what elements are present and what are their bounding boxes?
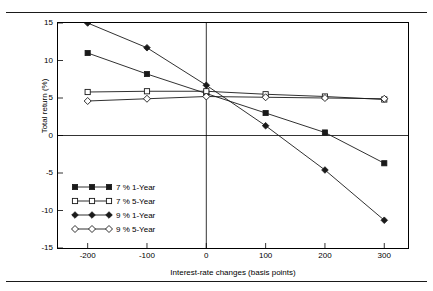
legend-marker	[72, 198, 77, 203]
series-marker	[144, 71, 149, 76]
y-tick-label: -10	[7, 206, 53, 215]
legend-symbol-svg	[70, 208, 114, 222]
chart-figure: Total return (%) Interest-rate changes (…	[0, 0, 433, 291]
series-marker	[84, 23, 91, 26]
series-1	[85, 89, 387, 102]
legend-label: 9 % 5-Year	[114, 225, 155, 234]
legend-marker	[89, 184, 94, 189]
x-tick-label: 300	[364, 251, 404, 260]
legend-marker	[106, 198, 111, 203]
series-marker	[143, 95, 150, 102]
y-tick-label: 5	[7, 93, 53, 102]
series-marker	[322, 130, 327, 135]
x-tick-label: 200	[305, 251, 345, 260]
legend-symbol	[70, 194, 114, 208]
y-axis-label: Total return (%)	[40, 58, 49, 154]
legend-marker	[106, 226, 113, 233]
legend-marker	[106, 212, 113, 219]
legend-item: 7 % 5-Year	[70, 194, 190, 208]
legend-marker	[89, 212, 96, 219]
legend-label: 7 % 1-Year	[114, 183, 155, 192]
x-tick-label: 100	[246, 251, 286, 260]
y-tick-label: 0	[7, 131, 53, 140]
legend: 7 % 1-Year7 % 5-Year9 % 1-Year9 % 5-Year	[70, 180, 190, 236]
legend-marker	[72, 226, 79, 233]
legend-label: 7 % 5-Year	[114, 197, 155, 206]
x-axis-label: Interest-rate changes (basis points)	[57, 268, 409, 277]
legend-symbol	[70, 222, 114, 236]
legend-item: 7 % 1-Year	[70, 180, 190, 194]
legend-marker	[89, 226, 96, 233]
y-tick-label: -15	[7, 243, 53, 252]
series-marker	[382, 161, 387, 166]
legend-marker	[106, 184, 111, 189]
legend-symbol-svg	[70, 194, 114, 208]
legend-item: 9 % 5-Year	[70, 222, 190, 236]
series-marker	[262, 122, 269, 129]
series-3	[84, 93, 388, 105]
figure-top-rule	[6, 12, 427, 13]
legend-symbol-svg	[70, 222, 114, 236]
y-tick-label: -5	[7, 168, 53, 177]
series-marker	[203, 82, 210, 89]
legend-label: 9 % 1-Year	[114, 211, 155, 220]
legend-symbol	[70, 180, 114, 194]
series-marker	[85, 89, 90, 94]
y-tick-label: 10	[7, 56, 53, 65]
series-marker	[144, 89, 149, 94]
legend-marker	[72, 184, 77, 189]
x-tick-label: 0	[186, 251, 226, 260]
y-tick-label: 15	[7, 18, 53, 27]
series-marker	[85, 50, 90, 55]
legend-marker	[89, 198, 94, 203]
series-marker	[84, 98, 91, 105]
series-line	[88, 53, 385, 163]
series-0	[85, 50, 387, 165]
legend-item: 9 % 1-Year	[70, 208, 190, 222]
series-marker	[263, 110, 268, 115]
legend-symbol	[70, 208, 114, 222]
figure-bottom-rule	[6, 281, 427, 282]
series-marker	[144, 44, 151, 51]
legend-marker	[72, 212, 79, 219]
legend-symbol-svg	[70, 180, 114, 194]
x-tick-label: -100	[127, 251, 167, 260]
x-tick-label: -200	[68, 251, 108, 260]
